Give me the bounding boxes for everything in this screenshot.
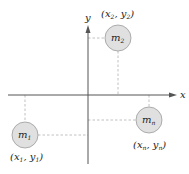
mass-mn: mn (xn, yn): [133, 107, 166, 151]
mass-m1: m1 (x1, y1): [10, 122, 43, 163]
x-axis-label: x: [180, 89, 186, 100]
point-masses-diagram: x y m2 (x2, y2) m1 (x1, y1) mn (xn, yn): [0, 0, 189, 174]
mass-m2-coord-label: (x2, y2): [101, 8, 134, 20]
y-axis-label: y: [84, 12, 91, 23]
mass-m2: m2 (x2, y2): [101, 8, 134, 51]
projection-lines: [25, 38, 149, 135]
y-axis-arrow-icon: [86, 25, 91, 33]
mass-m1-coord-label: (x1, y1): [10, 151, 43, 163]
x-axis-arrow-icon: [169, 93, 177, 98]
mass-mn-coord-label: (xn, yn): [133, 139, 166, 151]
